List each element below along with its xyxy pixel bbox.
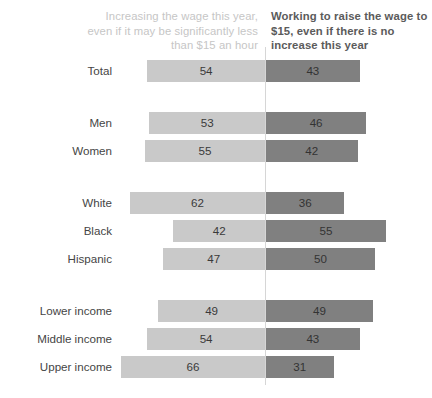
bar-value: 66 bbox=[121, 356, 265, 378]
bar-left-white: 62 bbox=[130, 192, 265, 214]
bar-value: 31 bbox=[266, 356, 334, 378]
chart-row: Women5542 bbox=[0, 140, 432, 162]
row-label-hispanic: Hispanic bbox=[0, 248, 112, 270]
chart-row: Lower income4949 bbox=[0, 300, 432, 322]
bar-value: 53 bbox=[149, 112, 265, 134]
chart-row: Black4255 bbox=[0, 220, 432, 242]
bar-value: 43 bbox=[266, 328, 360, 350]
bar-right-upper-income: 31 bbox=[266, 356, 334, 378]
diverging-bar-chart: Increasing the wage this year, even if i… bbox=[0, 0, 432, 398]
bar-value: 55 bbox=[266, 220, 386, 242]
bar-value: 42 bbox=[266, 140, 358, 162]
bar-right-total: 43 bbox=[266, 60, 360, 82]
chart-row: Total5443 bbox=[0, 60, 432, 82]
bar-value: 49 bbox=[158, 300, 265, 322]
bar-left-lower-income: 49 bbox=[158, 300, 265, 322]
row-label-lower-income: Lower income bbox=[0, 300, 112, 322]
bar-value: 36 bbox=[266, 192, 344, 214]
row-label-women: Women bbox=[0, 140, 112, 162]
bar-left-hispanic: 47 bbox=[163, 248, 265, 270]
bar-value: 54 bbox=[147, 60, 265, 82]
bar-value: 43 bbox=[266, 60, 360, 82]
bar-value: 47 bbox=[163, 248, 265, 270]
bar-left-total: 54 bbox=[147, 60, 265, 82]
row-label-black: Black bbox=[0, 220, 112, 242]
bar-left-women: 55 bbox=[145, 140, 265, 162]
bar-value: 46 bbox=[266, 112, 366, 134]
bar-left-middle-income: 54 bbox=[147, 328, 265, 350]
chart-row: White6236 bbox=[0, 192, 432, 214]
bar-right-lower-income: 49 bbox=[266, 300, 373, 322]
row-label-men: Men bbox=[0, 112, 112, 134]
bar-value: 50 bbox=[266, 248, 375, 270]
bar-value: 49 bbox=[266, 300, 373, 322]
legend-label-left: Increasing the wage this year, even if i… bbox=[86, 9, 258, 53]
bar-left-upper-income: 66 bbox=[121, 356, 265, 378]
bar-right-black: 55 bbox=[266, 220, 386, 242]
bar-left-men: 53 bbox=[149, 112, 265, 134]
row-label-white: White bbox=[0, 192, 112, 214]
bar-right-hispanic: 50 bbox=[266, 248, 375, 270]
chart-row: Middle income5443 bbox=[0, 328, 432, 350]
bar-value: 54 bbox=[147, 328, 265, 350]
bar-left-black: 42 bbox=[173, 220, 265, 242]
chart-row: Upper income6631 bbox=[0, 356, 432, 378]
row-label-middle-income: Middle income bbox=[0, 328, 112, 350]
bar-right-white: 36 bbox=[266, 192, 344, 214]
bar-right-women: 42 bbox=[266, 140, 358, 162]
chart-row: Hispanic4750 bbox=[0, 248, 432, 270]
chart-row: Men5346 bbox=[0, 112, 432, 134]
legend-label-right: Working to raise the wage to $15, even i… bbox=[271, 9, 432, 53]
bar-value: 42 bbox=[173, 220, 265, 242]
bar-value: 55 bbox=[145, 140, 265, 162]
bar-right-middle-income: 43 bbox=[266, 328, 360, 350]
row-label-upper-income: Upper income bbox=[0, 356, 112, 378]
bar-value: 62 bbox=[130, 192, 265, 214]
row-label-total: Total bbox=[0, 60, 112, 82]
bar-right-men: 46 bbox=[266, 112, 366, 134]
